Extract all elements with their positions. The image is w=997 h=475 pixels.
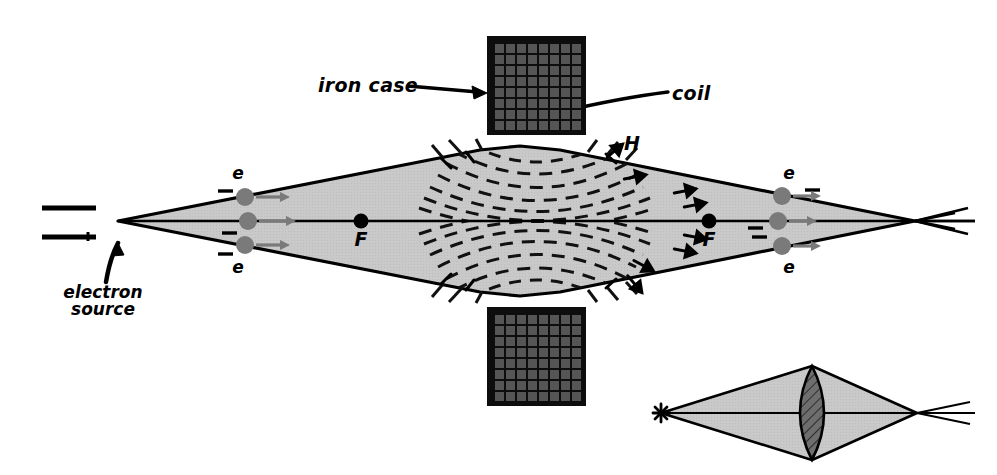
optical-analogy-inset: [653, 366, 975, 460]
electron-label-upper-left: e: [232, 163, 244, 183]
focus-label-left: F: [355, 228, 368, 250]
electron-label-lower-right: e: [783, 257, 795, 277]
coil-label: coil: [672, 82, 711, 104]
iron-case-label: iron case: [318, 74, 418, 96]
focus-label-right: F: [703, 228, 716, 250]
figure-canvas: e e e e F F iron case coil H electron so…: [0, 0, 997, 475]
focus-right: [702, 214, 717, 229]
electron-label-lower-left: e: [232, 257, 244, 277]
electron-source-label-line2: source: [48, 301, 158, 318]
electron-source-plates: [42, 208, 96, 241]
electron-label-upper-right: e: [783, 163, 795, 183]
iron-case-leader-arrow: [408, 86, 487, 99]
inset-point-source: [653, 404, 670, 422]
electron-source-label: electron source: [48, 284, 158, 318]
field-H-arrow: [603, 140, 626, 162]
pole-gap-bottom: [524, 298, 549, 307]
iron-case-bottom: [487, 298, 586, 406]
pole-gap-top: [524, 135, 549, 144]
beam-crossover-right: [915, 208, 975, 234]
field-H-label: H: [624, 132, 640, 154]
inset-crossover: [917, 402, 975, 424]
iron-case-top: [487, 36, 586, 144]
focus-left: [354, 214, 369, 229]
diagram-svg: e e e e F F: [0, 0, 997, 475]
electron-source-leader-arrow: [106, 243, 124, 282]
